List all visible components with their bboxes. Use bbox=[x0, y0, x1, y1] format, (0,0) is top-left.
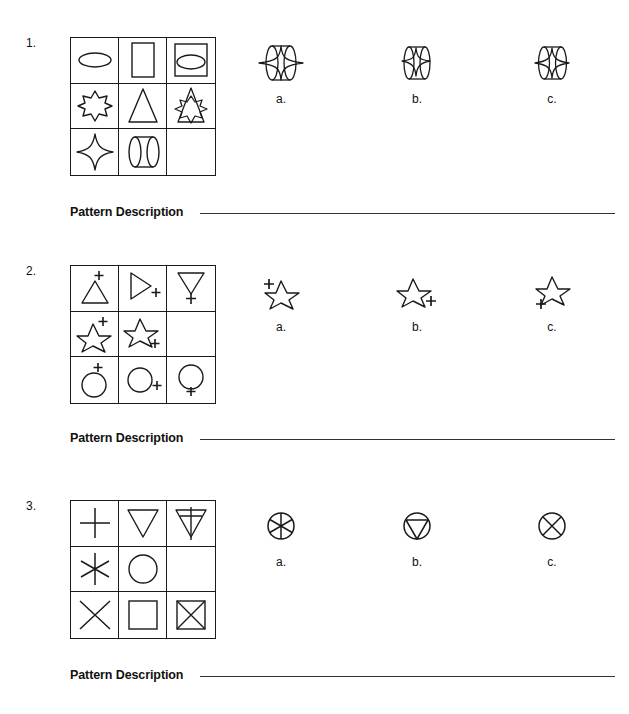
problem-number: 2. bbox=[26, 265, 36, 277]
answer-option-b-label: b. bbox=[362, 93, 472, 105]
answer-option-a-art bbox=[226, 265, 336, 317]
answer-option-b-label: b. bbox=[362, 556, 472, 568]
pattern-matrix bbox=[70, 265, 216, 404]
answer-option-b-art bbox=[362, 500, 472, 552]
answer-option-b-art bbox=[362, 37, 472, 89]
matrix-cell-r3c3 bbox=[167, 129, 215, 175]
matrix-cell-r1c3 bbox=[167, 38, 215, 84]
pattern-description-label: Pattern Description bbox=[70, 432, 183, 445]
matrix-cell-r1c3 bbox=[167, 266, 215, 312]
pattern-description-row: Pattern Description bbox=[70, 669, 615, 689]
pattern-description-rule[interactable] bbox=[200, 213, 615, 214]
answer-option-c-art bbox=[497, 500, 607, 552]
matrix-cell-r3c2 bbox=[119, 129, 167, 175]
answer-options: a. b. bbox=[226, 37, 621, 176]
answer-options: a. b. c. bbox=[226, 265, 621, 404]
pattern-description-label: Pattern Description bbox=[70, 669, 183, 682]
answer-option-a-art bbox=[226, 37, 336, 89]
matrix-cell-r3c1 bbox=[71, 357, 119, 403]
answer-option-a-art bbox=[226, 500, 336, 552]
matrix-cell-r1c2 bbox=[119, 501, 167, 547]
matrix-cell-r3c3 bbox=[167, 592, 215, 638]
matrix-cell-r3c3 bbox=[167, 357, 215, 403]
pattern-description-row: Pattern Description bbox=[70, 206, 615, 226]
answer-option-a-label: a. bbox=[226, 556, 336, 568]
matrix-cell-r1c1 bbox=[71, 38, 119, 84]
matrix-cell-r2c2 bbox=[119, 84, 167, 130]
answer-option-b[interactable]: b. bbox=[362, 500, 472, 568]
answer-option-a[interactable]: a. bbox=[226, 37, 336, 105]
pattern-matrix bbox=[70, 37, 216, 176]
answer-option-c-art bbox=[497, 265, 607, 317]
matrix-cell-r1c3 bbox=[167, 501, 215, 547]
answer-option-c-label: c. bbox=[497, 321, 607, 333]
answer-option-c[interactable]: c. bbox=[497, 500, 607, 568]
matrix-cell-r3c1 bbox=[71, 129, 119, 175]
matrix-cell-r3c1 bbox=[71, 592, 119, 638]
matrix-cell-r2c1 bbox=[71, 312, 119, 358]
answer-options: a. b. c. bbox=[226, 500, 621, 639]
matrix-cell-r1c1 bbox=[71, 501, 119, 547]
answer-option-c-label: c. bbox=[497, 556, 607, 568]
matrix-cell-r2c3 bbox=[167, 547, 215, 593]
answer-option-b-art bbox=[362, 265, 472, 317]
matrix-cell-r2c1 bbox=[71, 547, 119, 593]
matrix-cell-r2c1 bbox=[71, 84, 119, 130]
answer-option-c-art bbox=[497, 37, 607, 89]
matrix-cell-r2c3 bbox=[167, 312, 215, 358]
matrix-cell-r2c3 bbox=[167, 84, 215, 130]
answer-option-a-label: a. bbox=[226, 93, 336, 105]
matrix-cell-r1c2 bbox=[119, 38, 167, 84]
answer-option-b-label: b. bbox=[362, 321, 472, 333]
answer-option-a[interactable]: a. bbox=[226, 500, 336, 568]
answer-option-a-label: a. bbox=[226, 321, 336, 333]
answer-option-c[interactable]: c. bbox=[497, 37, 607, 105]
problem-number: 3. bbox=[26, 500, 36, 512]
answer-option-a[interactable]: a. bbox=[226, 265, 336, 333]
answer-option-c-label: c. bbox=[497, 93, 607, 105]
answer-option-b[interactable]: b. bbox=[362, 37, 472, 105]
matrix-cell-r2c2 bbox=[119, 547, 167, 593]
matrix-cell-r3c2 bbox=[119, 357, 167, 403]
matrix-cell-r3c2 bbox=[119, 592, 167, 638]
matrix-cell-r2c2 bbox=[119, 312, 167, 358]
pattern-description-label: Pattern Description bbox=[70, 206, 183, 219]
matrix-cell-r1c2 bbox=[119, 266, 167, 312]
pattern-description-rule[interactable] bbox=[200, 676, 615, 677]
matrix-cell-r1c1 bbox=[71, 266, 119, 312]
pattern-matrix bbox=[70, 500, 216, 639]
answer-option-b[interactable]: b. bbox=[362, 265, 472, 333]
pattern-description-rule[interactable] bbox=[200, 439, 615, 440]
pattern-description-row: Pattern Description bbox=[70, 432, 615, 452]
answer-option-c[interactable]: c. bbox=[497, 265, 607, 333]
problem-number: 1. bbox=[26, 37, 36, 49]
